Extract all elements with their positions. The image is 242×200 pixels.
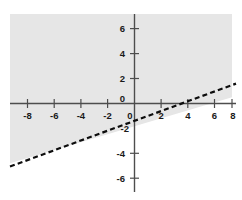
solution-region-group (10, 14, 232, 163)
x-tick-label-8: 8 (230, 110, 235, 121)
x-origin-label-group: 0 (127, 110, 132, 121)
x-tick-label-0: 0 (127, 110, 132, 121)
x-tick-label-4: 4 (185, 110, 191, 121)
coordinate-plane: -8 -6 -4 -2 2 4 6 8 6 4 2 0 -2 -4 -6 0 (0, 0, 242, 200)
y-tick-label-4: 4 (120, 48, 126, 59)
x-tick-label-6: 6 (212, 110, 217, 121)
y-tick-label--6: -6 (117, 173, 125, 184)
y-tick-label--4: -4 (117, 148, 126, 159)
x-tick-label--4: -4 (77, 110, 86, 121)
x-tick-label--8: -8 (23, 110, 31, 121)
x-tick-label--2: -2 (103, 110, 111, 121)
y-tick-label-2: 2 (120, 73, 125, 84)
x-tick-label--6: -6 (50, 110, 58, 121)
y-tick-label-0: 0 (120, 93, 125, 104)
inequality-graph: -8 -6 -4 -2 2 4 6 8 6 4 2 0 -2 -4 -6 0 (0, 0, 242, 200)
shaded-region-above-line (10, 14, 232, 163)
y-tick-label-6: 6 (120, 23, 125, 34)
